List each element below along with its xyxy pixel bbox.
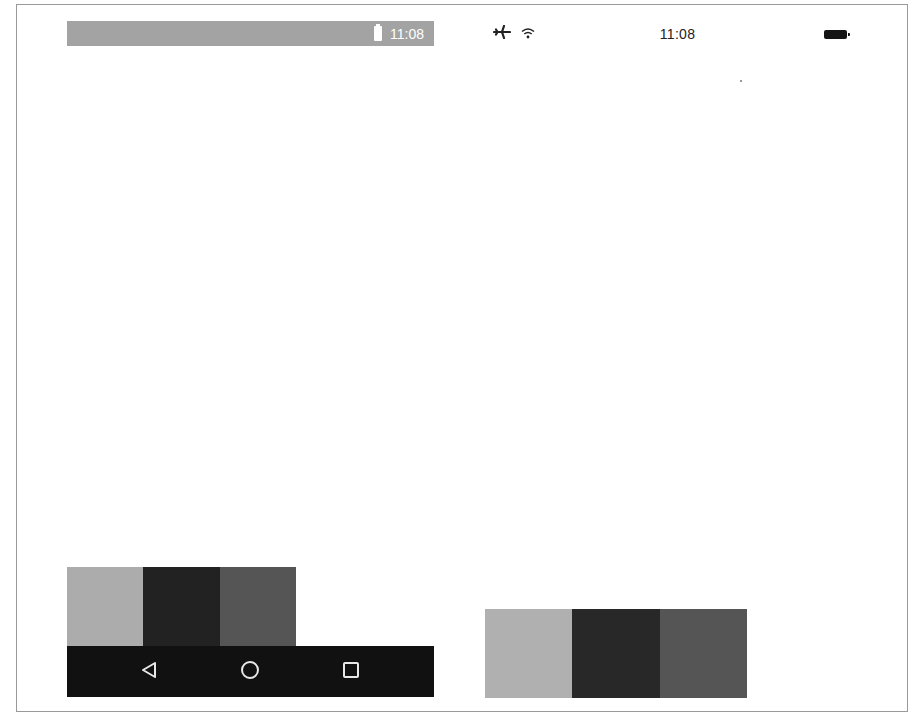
battery-icon <box>374 26 382 41</box>
swatch-accent <box>660 609 747 698</box>
battery-icon <box>824 30 847 39</box>
recents-square-icon <box>342 661 360 683</box>
stray-dot <box>740 80 742 82</box>
recents-button[interactable] <box>342 661 360 683</box>
android-status-bar: 11:08 <box>67 21 434 46</box>
back-triangle-icon <box>140 661 158 683</box>
ios-status-bar: 11:08 <box>485 21 870 46</box>
android-navigation-bar <box>67 646 434 697</box>
ios-color-swatches <box>485 609 747 698</box>
back-button[interactable] <box>140 661 158 683</box>
swatch-accent <box>220 567 296 647</box>
android-status-time: 11:08 <box>390 26 424 42</box>
swatch-primary-dark <box>572 609 659 698</box>
swatch-primary <box>67 567 143 647</box>
home-button[interactable] <box>240 660 260 684</box>
home-circle-icon <box>240 660 260 684</box>
swatch-primary <box>485 609 572 698</box>
swatch-primary-dark <box>143 567 219 647</box>
android-color-swatches <box>67 567 296 647</box>
ios-status-time: 11:08 <box>485 26 870 42</box>
